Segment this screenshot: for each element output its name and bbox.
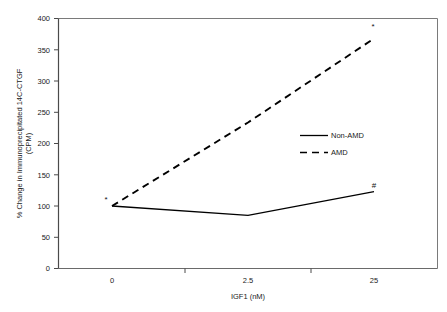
y-tick-label: 250 (37, 108, 50, 117)
series-line-amd (112, 39, 374, 207)
y-axis-ticks (54, 19, 59, 269)
x-axis-tick-labels: 0 2.5 25 (110, 276, 378, 285)
y-axis-title-line1: % Change in Immunoprecipitated 14C-CTGF (15, 68, 24, 218)
x-tick-label: 25 (370, 276, 378, 285)
line-chart: 400 350 300 250 200 150 100 50 0 % Chang… (0, 0, 447, 312)
x-tick-label: 2.5 (243, 276, 253, 285)
plot-frame (59, 19, 438, 269)
y-axis-title: % Change in Immunoprecipitated 14C-CTGF … (15, 68, 33, 218)
y-axis-title-line2: (CPM) (24, 132, 33, 154)
y-tick-label: 300 (37, 77, 50, 86)
y-tick-label: 200 (37, 139, 50, 148)
series-line-non-amd (112, 192, 374, 216)
chart-legend: Non-AMD AMD (300, 131, 365, 157)
annotation-asterisk-origin: * (104, 195, 107, 204)
annotation-hash-nonamd-25: # (372, 181, 377, 190)
y-tick-label: 50 (42, 233, 50, 242)
y-tick-label: 400 (37, 14, 50, 23)
annotation-asterisk-amd-25: * (371, 22, 374, 31)
legend-label-non-amd: Non-AMD (331, 131, 365, 140)
x-tick-label: 0 (110, 276, 114, 285)
x-axis-ticks (185, 269, 311, 274)
y-axis-tick-labels: 400 350 300 250 200 150 100 50 0 (37, 14, 50, 273)
chart-figure: 400 350 300 250 200 150 100 50 0 % Chang… (0, 0, 447, 312)
chart-annotations: * * # (104, 22, 376, 204)
legend-label-amd: AMD (331, 148, 348, 157)
y-tick-label: 100 (37, 202, 50, 211)
y-tick-label: 150 (37, 171, 50, 180)
x-axis-title: IGF1 (nM) (231, 292, 266, 301)
y-tick-label: 350 (37, 46, 50, 55)
y-tick-label: 0 (46, 264, 50, 273)
